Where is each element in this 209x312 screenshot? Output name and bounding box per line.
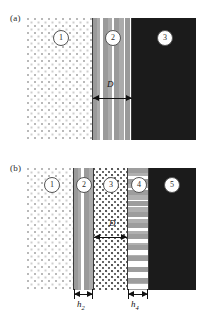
panel-b-h2-tick-right bbox=[92, 289, 93, 299]
panel-b-h2-tick-left bbox=[74, 289, 75, 299]
panel-b-h4-tick-right bbox=[147, 289, 148, 299]
panel-b-dimension-D-label: D bbox=[109, 218, 116, 228]
panel-a-D-arrowhead-right bbox=[126, 95, 132, 101]
panel-b-dimension-h2-label: h2 bbox=[77, 299, 85, 311]
panel-b-h4-tick-left bbox=[128, 289, 129, 299]
panel-b-label: (b) bbox=[10, 163, 21, 173]
panel-a-boundary-1-2 bbox=[92, 18, 93, 140]
panel-b-region-3-number: 3 bbox=[103, 177, 119, 193]
panel-a-dimension-D-label: D bbox=[107, 79, 114, 89]
panel-b: (b) 1 2 3 4 5 D bbox=[0, 156, 209, 312]
panel-a-boundary-2-3 bbox=[131, 18, 132, 140]
panel-b-region-1-number: 1 bbox=[44, 177, 60, 193]
panel-b-D-arrowhead-right bbox=[121, 234, 127, 240]
panel-b-boundary-1-2 bbox=[73, 168, 74, 290]
panel-b-dimension-h4-label: h4 bbox=[131, 299, 139, 311]
panel-a-region-3-number: 3 bbox=[157, 30, 173, 46]
panel-b-boundary-3-4 bbox=[127, 168, 128, 290]
panel-b-D-arrowhead-left bbox=[94, 234, 100, 240]
panel-b-boundary-2-3 bbox=[93, 168, 94, 290]
panel-b-boundary-4-5 bbox=[148, 168, 149, 290]
figure-root: (a) 1 2 3 D (b) bbox=[0, 0, 209, 312]
panel-b-region-5-number: 5 bbox=[164, 177, 180, 193]
panel-a-label: (a) bbox=[10, 13, 21, 23]
panel-b-region-4-number: 4 bbox=[131, 177, 147, 193]
panel-a-D-arrowhead-left bbox=[93, 95, 99, 101]
panel-b-h2-subscript: 2 bbox=[82, 304, 85, 311]
panel-a: (a) 1 2 3 D bbox=[0, 0, 209, 156]
panel-b-D-text: D bbox=[109, 218, 116, 228]
panel-a-D-text: D bbox=[107, 79, 114, 89]
panel-a-region-1-number: 1 bbox=[53, 30, 69, 46]
panel-a-region-2-number: 2 bbox=[105, 30, 121, 46]
panel-b-region-2-number: 2 bbox=[76, 177, 92, 193]
panel-b-h4-subscript: 4 bbox=[136, 304, 139, 311]
